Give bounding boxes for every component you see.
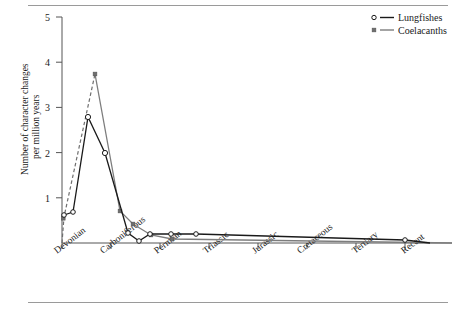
legend-marker-lungfishes xyxy=(372,15,376,19)
line-chart: 5 4 3 2 1 Devonian Carboniferous Permian… xyxy=(0,0,465,316)
figure-container: 5 4 3 2 1 Devonian Carboniferous Permian… xyxy=(0,0,465,316)
y-axis-label-line2: per million years xyxy=(31,94,41,159)
x-tick-label-cretaceous: Cretaceous xyxy=(295,222,335,256)
y-tick-label-2: 2 xyxy=(45,148,50,159)
y-tick-label-3: 3 xyxy=(45,102,50,113)
x-tick-label-jurassic: Jurassic xyxy=(250,229,280,255)
coelacanths-markers xyxy=(62,72,174,241)
y-axis-label-line1: Number of character changes xyxy=(20,63,30,175)
x-tick-label-triassic: Triassic xyxy=(201,229,231,255)
lungfishes-line xyxy=(64,117,430,243)
y-ticks xyxy=(56,17,62,198)
coelacanths-line xyxy=(95,74,452,243)
chart-legend: Lungfishes Coelacanths xyxy=(372,12,447,36)
coelacanths-dashed-segment xyxy=(62,74,95,243)
legend-label-coelacanths: Coelacanths xyxy=(398,25,447,36)
y-tick-label-1: 1 xyxy=(45,193,50,204)
y-tick-label-5: 5 xyxy=(45,12,50,23)
x-tick-label-devonian: Devonian xyxy=(52,225,87,256)
x-tick-label-permian: Permian xyxy=(152,228,183,256)
legend-marker-coelacanths xyxy=(372,28,376,32)
y-tick-label-4: 4 xyxy=(45,57,50,68)
legend-label-lungfishes: Lungfishes xyxy=(398,12,443,23)
x-tick-label-carboniferous: Carboniferous xyxy=(98,214,147,256)
